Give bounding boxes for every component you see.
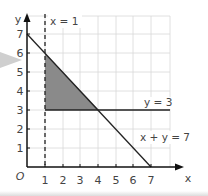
y-tick-label: 5 xyxy=(17,66,24,79)
y-tick-label: 2 xyxy=(17,123,24,136)
x-tick-label: 3 xyxy=(77,174,84,187)
x-tick-label: 6 xyxy=(130,174,137,187)
y-axis-arrow-icon xyxy=(24,13,31,22)
label-x-plus-y-equals-7: x + y = 7 xyxy=(140,131,190,143)
y-tick-label: 1 xyxy=(17,142,24,155)
x-axis-arrow-icon xyxy=(175,164,184,171)
x-tick-label: 7 xyxy=(148,174,155,187)
y-tick-label: 4 xyxy=(17,85,24,98)
y-tick-label: 6 xyxy=(17,47,24,60)
x-axis-label: x xyxy=(185,172,192,185)
x-tick-label: 2 xyxy=(60,174,67,187)
label-y-equals-3: y = 3 xyxy=(144,96,172,108)
x-tick-label: 4 xyxy=(95,174,102,187)
label-x-equals-1: x = 1 xyxy=(50,15,78,27)
x-tick-label: 1 xyxy=(42,174,49,187)
y-tick-label: 3 xyxy=(17,104,24,117)
y-axis-label: y xyxy=(15,13,22,26)
y-tick-label: 7 xyxy=(17,28,24,41)
inequality-graph: 1 2 3 4 5 6 7 1 2 3 4 5 6 7 y x O x = 1 … xyxy=(0,0,208,196)
bottom-shadow-bar xyxy=(0,191,208,196)
origin-label: O xyxy=(16,170,25,183)
x-tick-label: 5 xyxy=(113,174,120,187)
